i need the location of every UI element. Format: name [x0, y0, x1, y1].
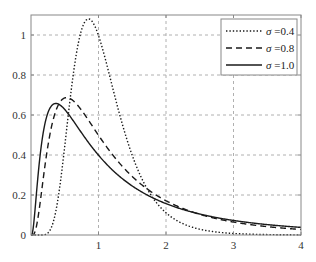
legend-label-sigma-1.0: σ =1.0: [266, 59, 295, 71]
x-tick-label: 3: [231, 239, 237, 251]
y-tick-label: 0.4: [12, 149, 26, 161]
legend-label-sigma-0.4: σ =0.4: [266, 25, 295, 37]
legend: σ =0.4 σ =0.8 σ =1.0: [221, 19, 297, 75]
y-tick-label: 0.2: [12, 189, 26, 201]
x-tick-label: 2: [163, 239, 169, 251]
y-tick-label: 0: [21, 229, 27, 241]
x-tick-label: 4: [298, 239, 304, 251]
legend-label-sigma-0.8: σ =0.8: [266, 42, 295, 54]
lognormal-pdf-chart: 00.20.40.60.81 1234 σ =0.4 σ =0.8 σ =1.0: [0, 0, 316, 262]
y-tick-label: 0.8: [12, 69, 26, 81]
y-tick-label: 0.6: [12, 109, 26, 121]
x-tick-label: 1: [96, 239, 102, 251]
y-tick-label: 1: [21, 29, 27, 41]
